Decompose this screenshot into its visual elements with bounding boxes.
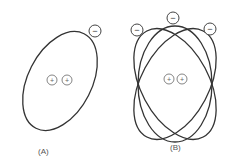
minus-sign: −: [170, 13, 175, 23]
panel-b: + + − − −: [117, 12, 226, 153]
electron-b-1: −: [131, 24, 143, 36]
plus-sign: +: [167, 76, 171, 83]
minus-sign: −: [92, 26, 97, 36]
electron-a-1: −: [89, 25, 101, 37]
nucleus-b-2: +: [177, 74, 187, 84]
electron-b-2: −: [167, 12, 179, 24]
plus-sign: +: [180, 76, 184, 83]
electron-b-3: −: [204, 23, 216, 35]
panel-a: + + −: [7, 19, 112, 143]
nucleus-a-2: +: [62, 75, 72, 85]
orbit-b-vertical: [138, 26, 212, 142]
minus-sign: −: [134, 25, 139, 35]
panel-a-label: (A): [38, 147, 49, 156]
nucleus-b-1: +: [164, 74, 174, 84]
nucleus-a-1: +: [47, 75, 57, 85]
plus-sign: +: [50, 77, 54, 84]
orbit-a: [7, 19, 112, 143]
minus-sign: −: [207, 24, 212, 34]
panel-b-label: (B): [170, 143, 181, 152]
plus-sign: +: [65, 77, 69, 84]
diagram-canvas: + + − + + − −: [0, 0, 226, 165]
